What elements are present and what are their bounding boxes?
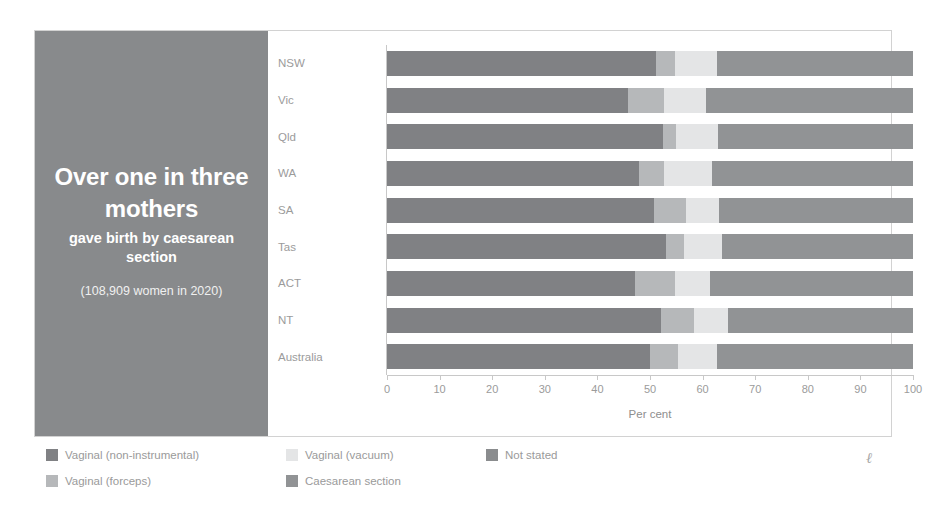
signature-mark: ℓ [866, 450, 872, 467]
bar-segment [654, 198, 686, 223]
bar-segment [387, 124, 663, 149]
bar-segment [664, 88, 706, 113]
x-axis-tick [703, 375, 704, 380]
caption-subtitle: gave birth by caesarean section [52, 229, 252, 267]
x-axis-tick-label: 70 [749, 383, 761, 395]
legend-label: Vaginal (forceps) [65, 475, 151, 487]
bar-segment [676, 124, 718, 149]
bar-segment [387, 161, 639, 186]
legend-swatch-icon [46, 449, 58, 461]
y-axis-tick-label: Qld [278, 131, 296, 143]
legend-swatch-icon [486, 449, 498, 461]
bar-row [387, 344, 913, 369]
bar-row [387, 88, 913, 113]
bar-segment [675, 51, 717, 76]
chart-legend: Vaginal (non-instrumental)Vaginal (force… [46, 449, 866, 501]
bar-segment [706, 88, 913, 113]
bar-segment [717, 344, 913, 369]
y-axis-tick-label: Tas [278, 241, 296, 253]
bar-segment [639, 161, 664, 186]
bar-segment [628, 88, 664, 113]
bar-segment [710, 271, 913, 296]
x-axis-tick-label: 60 [696, 383, 708, 395]
bar-row [387, 271, 913, 296]
y-axis-tick-label: SA [278, 204, 293, 216]
bar-row [387, 161, 913, 186]
bar-segment [387, 234, 666, 259]
y-axis-tick-label: NT [278, 314, 293, 326]
x-axis-tick [650, 375, 651, 380]
bar-segment [686, 198, 719, 223]
bar-segment [712, 161, 913, 186]
legend-label: Not stated [505, 449, 557, 461]
legend-item[interactable]: Not stated [486, 449, 557, 461]
caption-panel: Over one in three mothers gave birth by … [35, 31, 268, 436]
bar-segment [387, 198, 654, 223]
x-axis-tick [492, 375, 493, 380]
caption-headline: Over one in three mothers [47, 161, 256, 224]
x-axis-tick-label: 80 [802, 383, 814, 395]
legend-item[interactable]: Vaginal (forceps) [46, 475, 151, 487]
bar-segment [666, 234, 684, 259]
x-axis-tick [808, 375, 809, 380]
x-axis-tick-label: 20 [486, 383, 498, 395]
bar-segment [664, 161, 711, 186]
bar-segment [387, 88, 628, 113]
legend-item[interactable]: Vaginal (non-instrumental) [46, 449, 199, 461]
bar-row [387, 124, 913, 149]
bar-segment [728, 308, 913, 333]
bar-row [387, 308, 913, 333]
x-axis-title: Per cent [387, 408, 913, 420]
bar-segment [656, 51, 674, 76]
y-axis-tick-label: WA [278, 167, 296, 179]
x-axis-tick [755, 375, 756, 380]
bar-segment [684, 234, 722, 259]
bar-segment [387, 344, 650, 369]
legend-item[interactable]: Vaginal (vacuum) [286, 449, 394, 461]
chart-figure: Over one in three mothers gave birth by … [0, 0, 932, 523]
plot-region: NSWVicQldWASATasACTNTAustralia 010203040… [268, 31, 891, 436]
x-axis-tick [913, 375, 914, 380]
bar-row [387, 234, 913, 259]
bar-segment [719, 198, 913, 223]
bar-segment [694, 308, 728, 333]
bar-segment [661, 308, 694, 333]
x-axis-tick-label: 40 [591, 383, 603, 395]
bar-segment [678, 344, 716, 369]
x-axis-tick-label: 30 [539, 383, 551, 395]
x-axis-tick-label: 100 [904, 383, 922, 395]
y-axis-tick-label: ACT [278, 277, 301, 289]
x-axis-tick [440, 375, 441, 380]
bar-row [387, 198, 913, 223]
x-axis-tick-label: 50 [644, 383, 656, 395]
bar-segment [635, 271, 676, 296]
bar-segment [650, 344, 678, 369]
bar-segment [663, 124, 676, 149]
x-axis-tick-label: 0 [384, 383, 390, 395]
legend-swatch-icon [286, 449, 298, 461]
bar-segment [722, 234, 913, 259]
legend-label: Vaginal (vacuum) [305, 449, 394, 461]
y-axis-tick-label: Australia [278, 351, 323, 363]
x-axis-tick [387, 375, 388, 380]
y-axis-tick-label: Vic [278, 94, 294, 106]
y-axis-category-labels: NSWVicQldWASATasACTNTAustralia [268, 45, 383, 375]
bar-segment [718, 124, 913, 149]
x-axis-line: 0102030405060708090100 [387, 375, 913, 376]
bar-segment [387, 271, 635, 296]
legend-label: Vaginal (non-instrumental) [65, 449, 199, 461]
bar-segment [387, 308, 661, 333]
caption-note: (108,909 women in 2020) [81, 284, 223, 298]
x-axis-tick-label: 90 [854, 383, 866, 395]
bar-segment [717, 51, 913, 76]
legend-item[interactable]: Caesarean section [286, 475, 401, 487]
bar-segment [675, 271, 710, 296]
bar-segment [387, 51, 656, 76]
legend-swatch-icon [286, 475, 298, 487]
legend-swatch-icon [46, 475, 58, 487]
bar-row [387, 51, 913, 76]
stacked-bars-area [387, 45, 913, 375]
chart-frame: Over one in three mothers gave birth by … [34, 30, 892, 437]
y-axis-tick-label: NSW [278, 57, 305, 69]
legend-label: Caesarean section [305, 475, 401, 487]
